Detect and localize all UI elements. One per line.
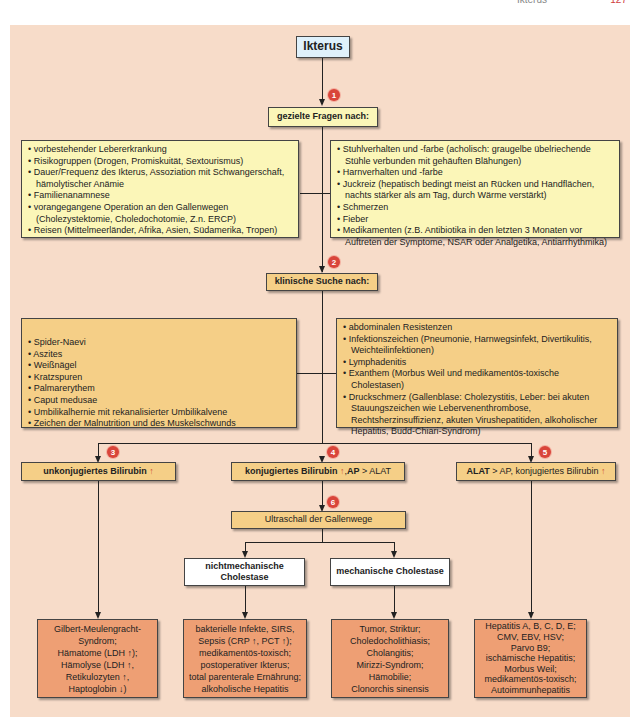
arrow-down-icon bbox=[242, 612, 248, 619]
step-badge-5: 5 bbox=[539, 446, 551, 458]
step-1-label: gezielte Fragen nach: bbox=[277, 111, 369, 123]
list-item: Umbilikalhernie mit rekanalisierter Umbi… bbox=[28, 407, 290, 419]
clinical-right-box: abdominalen Resistenzen Infektionszeiche… bbox=[336, 318, 618, 428]
step-1-box: gezielte Fragen nach: bbox=[268, 107, 378, 127]
mechanical-label: mechanische Cholestase bbox=[336, 566, 444, 578]
step-badge-6: 6 bbox=[327, 496, 339, 508]
nonmechanical-box: nichtmechanische Cholestase bbox=[184, 558, 305, 586]
arrow-down-icon bbox=[319, 266, 325, 273]
list-item: Exanthem (Morbus Weil und medikamentös-t… bbox=[343, 368, 611, 391]
connector bbox=[98, 443, 531, 444]
arrow-down-icon bbox=[391, 612, 397, 619]
step-badge-2: 2 bbox=[328, 256, 340, 268]
list-item: vorbestehender Lebererkrankung bbox=[28, 144, 292, 156]
branch-unconjugated: unkonjugiertes Bilirubin ↑ bbox=[21, 462, 176, 481]
step-2-box: klinische Suche nach: bbox=[266, 273, 378, 291]
arrow-down-icon bbox=[242, 551, 248, 558]
list-item: Lymphadenitis bbox=[343, 357, 611, 369]
anamnesis-left-box: vorbestehender Lebererkrankung Risikogru… bbox=[21, 140, 299, 238]
list-item: Infektionszeichen (Pneumonie, Harnwegsin… bbox=[343, 334, 611, 357]
anamnesis-right-box: Stuhlverhalten und -farbe (acholisch: gr… bbox=[330, 140, 620, 238]
result-unconjugated: Gilbert-Meulengracht- Syndrom; Hämatome … bbox=[37, 619, 158, 698]
arrow-down-icon bbox=[391, 551, 397, 558]
up-arrow-icon: ↑ bbox=[149, 466, 154, 478]
connector bbox=[322, 529, 323, 542]
clinical-left-box: Spider-Naevi Aszites Weißnägel Kratzspur… bbox=[21, 318, 297, 428]
list-item: Stuhlverhalten und -farbe (acholisch: gr… bbox=[337, 144, 613, 167]
list-item: Zeichen der Malnutrition und des Muskels… bbox=[28, 418, 290, 430]
list-item: abdominalen Resistenzen bbox=[343, 322, 611, 334]
title-text: Ikterus bbox=[303, 41, 342, 53]
step-badge-4: 4 bbox=[327, 446, 339, 458]
running-title: Ikterus bbox=[517, 0, 547, 5]
list-item: Risikogruppen (Drogen, Promiskuität, Sex… bbox=[28, 156, 292, 168]
connector bbox=[322, 58, 323, 104]
result-mechanical: Tumor, Striktur; Choledocholithiasis; Ch… bbox=[331, 619, 449, 698]
connector bbox=[300, 193, 330, 194]
step-6-box: Ultraschall der Gallenwege bbox=[231, 511, 406, 529]
list-item: Juckreiz (hepatisch bedingt meist an Rüc… bbox=[337, 179, 613, 202]
step-2-label: klinische Suche nach: bbox=[275, 276, 370, 288]
list-item: Familienanamnese bbox=[28, 190, 292, 202]
list-item: Schmerzen bbox=[337, 202, 613, 214]
arrow-down-icon bbox=[95, 612, 101, 619]
branch-conjugated: konjugiertes Bilirubin ↑, AP > ALAT bbox=[231, 462, 405, 481]
connector bbox=[98, 481, 99, 616]
connector bbox=[296, 373, 336, 374]
connector bbox=[322, 127, 323, 272]
connector bbox=[245, 542, 394, 543]
list-item: Druckschmerz (Gallenblase: Cholezystitis… bbox=[343, 392, 611, 438]
list-item: Spider-Naevi bbox=[28, 337, 290, 349]
title-box: Ikterus bbox=[296, 36, 350, 58]
list-item: Kratzspuren bbox=[28, 372, 290, 384]
up-arrow-icon: ↑ bbox=[601, 466, 606, 478]
connector bbox=[322, 291, 323, 444]
list-item: Fieber bbox=[337, 214, 613, 226]
result-nonmechanical: bakterielle Infekte, SIRS, Sepsis (CRP ↑… bbox=[183, 619, 307, 698]
branch-alat: ALAT > AP, konjugiertes Bilirubin ↑ bbox=[456, 462, 616, 481]
page-number: 127 bbox=[610, 0, 627, 5]
step-badge-1: 1 bbox=[328, 89, 340, 101]
step-badge-3: 3 bbox=[107, 446, 119, 458]
list-item: Weißnägel bbox=[28, 360, 290, 372]
list-item: Harnverhalten und -farbe bbox=[337, 167, 613, 179]
step-6-label: Ultraschall der Gallenwege bbox=[265, 514, 373, 526]
arrow-down-icon bbox=[319, 99, 325, 106]
connector bbox=[531, 481, 532, 616]
mechanical-box: mechanische Cholestase bbox=[330, 558, 450, 586]
list-item: vorangegangene Operation an den Gallenwe… bbox=[28, 202, 292, 225]
list-item: Caput medusae bbox=[28, 395, 290, 407]
list-item: Reisen (Mittelmeerländer, Afrika, Asien,… bbox=[28, 225, 292, 237]
list-item: Aszites bbox=[28, 349, 290, 361]
list-item: Medikamenten (z.B. Antibiotika in den le… bbox=[337, 225, 613, 248]
arrow-down-icon bbox=[528, 612, 534, 619]
nonmechanical-label: nichtmechanische Cholestase bbox=[200, 561, 290, 583]
page-header: Ikterus 127 bbox=[0, 0, 637, 10]
result-hepatic: Hepatitis A, B, C, D, E; CMV, EBV, HSV; … bbox=[474, 619, 587, 698]
list-item: Dauer/Frequenz des Ikterus, Assoziation … bbox=[28, 167, 292, 190]
list-item: Palmarerythem bbox=[28, 383, 290, 395]
